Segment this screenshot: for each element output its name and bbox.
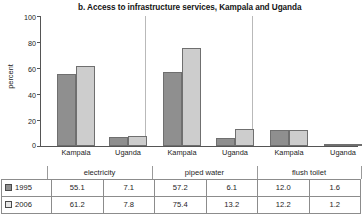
table-row: 2006 61.2 7.8 75.4 13.2 12.2 1.2	[2, 197, 361, 214]
bar-1995-uganda-piped-water	[216, 138, 235, 146]
bar-1995-kampala-piped-water	[163, 72, 182, 146]
y-tick-0: 0	[2, 142, 36, 149]
bar-1995-uganda-flush-toilet	[324, 144, 343, 146]
cell-1995-uganda-flush-toilet: 1.6	[309, 180, 361, 197]
bar-pair-kampala-piped-water	[163, 16, 201, 146]
values-table: 1995 55.1 7.1 57.2 6.1 12.0 1.6 2006 61.…	[1, 179, 361, 214]
legend-label-1995: 1995	[15, 180, 32, 196]
cell-1995-uganda-piped-water: 6.1	[206, 180, 258, 197]
cell-2006-uganda-piped-water: 13.2	[206, 197, 258, 214]
data-table: electricity piped water flush toilet 199…	[0, 166, 363, 216]
x-label-uganda-flush-toilet: Uganda	[310, 148, 363, 157]
bar-pair-uganda-flush-toilet	[324, 16, 362, 146]
bar-pair-kampala-flush-toilet	[270, 16, 308, 146]
page-title: b. Access to infrastructure services, Ka…	[78, 3, 358, 12]
bar-2006-uganda-electricity	[128, 136, 147, 146]
cell-2006-kampala-flush-toilet: 12.2	[258, 197, 310, 214]
bar-2006-kampala-electricity	[76, 66, 95, 146]
cell-2006-uganda-flush-toilet: 1.2	[309, 197, 361, 214]
y-tick-100: 100	[2, 14, 36, 21]
table-group-header-piped-water: piped water	[152, 166, 257, 179]
cell-2006-uganda-electricity: 7.8	[103, 197, 155, 214]
bar-2006-kampala-piped-water	[182, 48, 201, 146]
legend-label-2006: 2006	[15, 197, 32, 213]
bar-2006-uganda-piped-water	[235, 129, 254, 146]
bar-pair-kampala-electricity	[57, 16, 95, 146]
y-tick-20: 20	[2, 118, 36, 125]
plot-region: percent 100 80 60 40 20 0	[0, 14, 363, 148]
bar-1995-kampala-electricity	[57, 74, 76, 146]
cell-1995-uganda-electricity: 7.1	[103, 180, 155, 197]
cell-1995-kampala-piped-water: 57.2	[155, 180, 207, 197]
y-axis-ticks: 100 80 60 40 20 0	[0, 14, 36, 148]
x-axis-line	[40, 146, 358, 147]
cell-2006-kampala-piped-water: 75.4	[155, 197, 207, 214]
table-row: 1995 55.1 7.1 57.2 6.1 12.0 1.6	[2, 180, 361, 197]
group-divider-right	[361, 166, 362, 179]
y-tick-80: 80	[2, 40, 36, 47]
table-group-header-flush-toilet: flush toilet	[257, 166, 361, 179]
table-row-label-1995: 1995	[2, 180, 52, 197]
bar-1995-kampala-flush-toilet	[270, 130, 289, 146]
bar-1995-uganda-electricity	[109, 137, 128, 146]
table-row-label-2006: 2006	[2, 197, 52, 214]
legend-swatch-1995	[5, 184, 12, 191]
cell-2006-kampala-electricity: 61.2	[52, 197, 104, 214]
y-tick-40: 40	[2, 92, 36, 99]
bar-2006-uganda-flush-toilet	[343, 144, 362, 146]
bar-pair-uganda-electricity	[109, 16, 147, 146]
chart-figure: b. Access to infrastructure services, Ka…	[0, 0, 363, 216]
bar-2006-kampala-flush-toilet	[289, 130, 308, 146]
bar-pair-uganda-piped-water	[216, 16, 254, 146]
cell-1995-kampala-flush-toilet: 12.0	[258, 180, 310, 197]
legend-swatch-2006	[5, 201, 12, 208]
y-tick-60: 60	[2, 66, 36, 73]
cell-1995-kampala-electricity: 55.1	[52, 180, 104, 197]
table-group-header-electricity: electricity	[47, 166, 152, 179]
bars-container	[41, 16, 358, 146]
